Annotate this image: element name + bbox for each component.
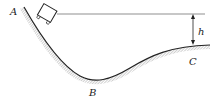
- height-arrow: [191, 14, 195, 45]
- label-b: B: [88, 87, 96, 98]
- block: [36, 4, 57, 25]
- label-a: A: [9, 6, 17, 17]
- label-h: h: [198, 26, 204, 37]
- label-c: C: [189, 56, 197, 67]
- track-diagram: A B C h: [0, 0, 220, 101]
